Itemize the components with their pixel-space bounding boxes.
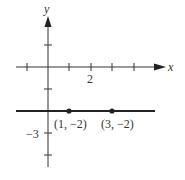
y-axis-arrow-icon (45, 16, 52, 27)
x-tick-label-2: 2 (87, 73, 93, 85)
point-3-neg2 (109, 108, 114, 113)
point-1-neg2 (66, 108, 71, 113)
point-label-1: (1, −2) (54, 118, 87, 130)
chart-plot (0, 0, 185, 180)
x-axis-label: x (168, 61, 173, 73)
x-axis-arrow-icon (154, 64, 166, 71)
y-axis-label: y (44, 3, 49, 15)
y-tick-label-neg3: −3 (26, 128, 39, 140)
point-label-2: (3, −2) (101, 118, 134, 130)
